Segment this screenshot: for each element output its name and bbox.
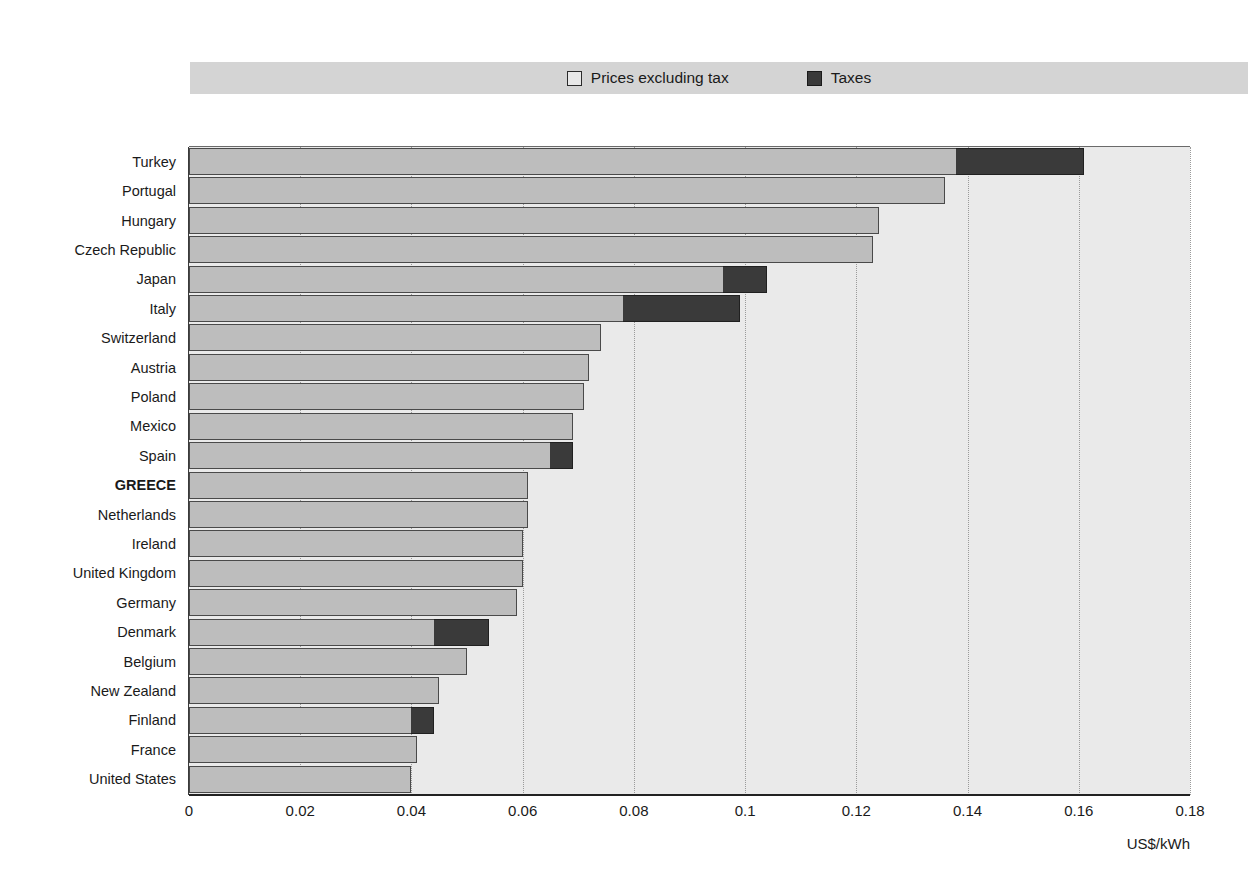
row-label-new-zealand: New Zealand [0,684,176,699]
bar-turkey [189,148,1084,175]
bar-segment-prices-excluding-tax [189,648,467,675]
row-label-turkey: Turkey [0,154,176,169]
bar-poland [189,383,584,410]
bar-segment-prices-excluding-tax [189,324,601,351]
x-axis-tick-label: 0.14 [953,803,982,818]
bar-japan [189,266,767,293]
bar-segment-prices-excluding-tax [189,148,956,175]
row-label-netherlands: Netherlands [0,507,176,522]
bar-new-zealand [189,677,439,704]
bar-germany [189,589,517,616]
x-axis-tick-label: 0.08 [619,803,648,818]
bar-segment-prices-excluding-tax [189,472,528,499]
bar-czech-republic [189,236,873,263]
bar-segment-taxes [550,442,572,469]
row-label-austria: Austria [0,360,176,375]
bar-segment-prices-excluding-tax [189,354,589,381]
bar-segment-taxes [411,707,433,734]
row-label-belgium: Belgium [0,654,176,669]
row-label-mexico: Mexico [0,419,176,434]
bar-segment-prices-excluding-tax [189,619,434,646]
bar-segment-prices-excluding-tax [189,177,945,204]
bar-finland [189,707,434,734]
bar-belgium [189,648,467,675]
bar-austria [189,354,589,381]
bar-netherlands [189,501,528,528]
row-label-denmark: Denmark [0,625,176,640]
bar-segment-prices-excluding-tax [189,413,573,440]
row-label-poland: Poland [0,390,176,405]
bar-segment-prices-excluding-tax [189,589,517,616]
bar-italy [189,295,740,322]
x-axis-tick-label: 0 [185,803,193,818]
bar-segment-prices-excluding-tax [189,383,584,410]
row-label-finland: Finland [0,713,176,728]
bar-greece [189,472,528,499]
row-label-switzerland: Switzerland [0,331,176,346]
row-label-united-states: United States [0,772,176,787]
row-label-italy: Italy [0,301,176,316]
row-label-czech-republic: Czech Republic [0,243,176,258]
y-axis-line [188,147,189,795]
x-axis-tick-label: 0.1 [735,803,756,818]
bar-segment-prices-excluding-tax [189,677,439,704]
row-label-greece: GREECE [0,478,176,493]
bar-france [189,736,417,763]
bar-denmark [189,619,489,646]
x-axis-tick-label: 0.06 [508,803,537,818]
row-label-hungary: Hungary [0,213,176,228]
bar-switzerland [189,324,601,351]
row-label-ireland: Ireland [0,537,176,552]
x-axis-tick-label: 0.04 [397,803,426,818]
bar-segment-taxes [623,295,740,322]
row-label-portugal: Portugal [0,184,176,199]
row-label-germany: Germany [0,596,176,611]
bar-spain [189,442,573,469]
bar-segment-taxes [434,619,490,646]
bar-portugal [189,177,945,204]
bar-ireland [189,530,523,557]
bar-chart: TurkeyPortugalHungaryCzech RepublicJapan… [0,0,1248,895]
x-axis-tick-label: 0.16 [1064,803,1093,818]
bar-segment-prices-excluding-tax [189,560,523,587]
bar-segment-prices-excluding-tax [189,736,417,763]
row-label-united-kingdom: United Kingdom [0,566,176,581]
bar-segment-taxes [956,148,1084,175]
bar-mexico [189,413,573,440]
bar-segment-prices-excluding-tax [189,236,873,263]
bar-segment-prices-excluding-tax [189,766,411,793]
bar-hungary [189,207,879,234]
bar-segment-taxes [723,266,767,293]
x-axis-unit-label: US$/kWh [1127,836,1190,851]
x-axis-tick-label: 0.12 [842,803,871,818]
bar-united-kingdom [189,560,523,587]
row-label-japan: Japan [0,272,176,287]
bar-segment-prices-excluding-tax [189,442,550,469]
bar-segment-prices-excluding-tax [189,295,623,322]
bar-segment-prices-excluding-tax [189,530,523,557]
bar-segment-prices-excluding-tax [189,501,528,528]
x-axis-tick-label: 0.18 [1175,803,1204,818]
row-label-spain: Spain [0,449,176,464]
x-axis-line [189,794,1190,796]
row-label-france: France [0,743,176,758]
bar-united-states [189,766,411,793]
x-axis-tick-label: 0.02 [286,803,315,818]
bar-segment-prices-excluding-tax [189,266,723,293]
bar-segment-prices-excluding-tax [189,207,879,234]
bar-segment-prices-excluding-tax [189,707,411,734]
